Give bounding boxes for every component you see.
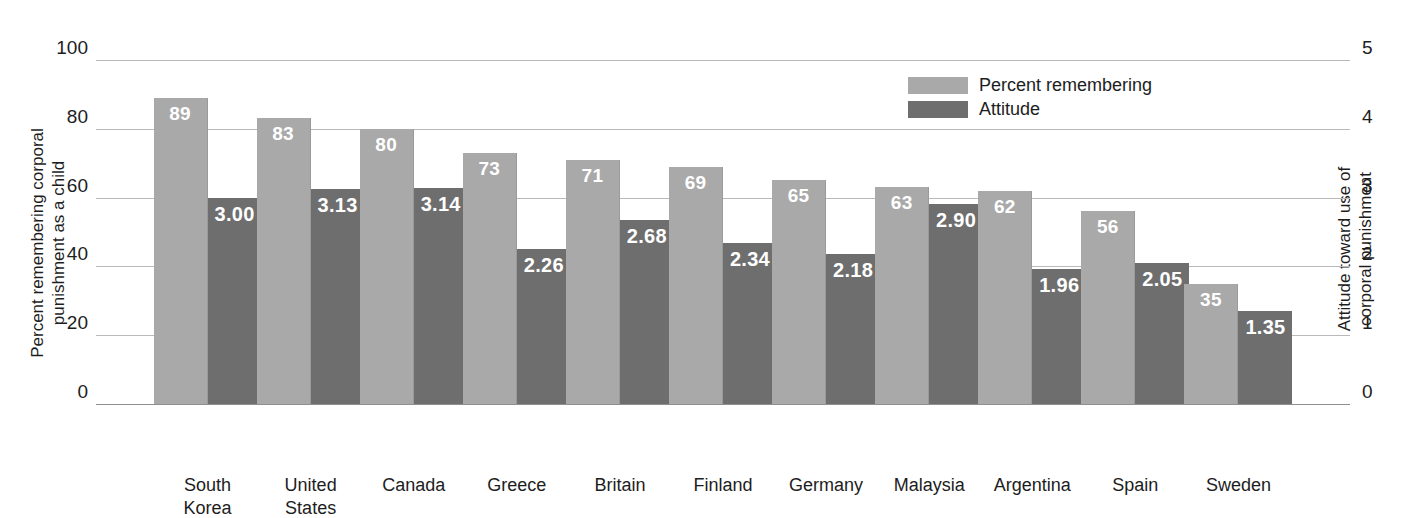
bar-group: 351.35 <box>1184 60 1292 404</box>
bar-value-label: 3.13 <box>311 195 365 215</box>
bar-value-label: 2.34 <box>723 249 777 269</box>
bar-percent-remembering: 35 <box>1184 284 1238 404</box>
y-tick-label-right: 0 <box>1362 382 1406 401</box>
bar-percent-remembering: 69 <box>669 167 723 404</box>
bar-percent-remembering: 65 <box>772 180 826 404</box>
bar-attitude: 2.26 <box>517 249 571 404</box>
bar-group: 803.14 <box>360 60 468 404</box>
y-axis-title-left: Percent remembering corporal punishment … <box>27 83 69 403</box>
bar-value-label: 62 <box>978 197 1031 217</box>
legend-item: Percent remembering <box>908 74 1152 96</box>
bar-percent-remembering: 89 <box>154 98 208 404</box>
bar-value-label: 2.68 <box>620 226 674 246</box>
legend-label: Attitude <box>979 99 1040 120</box>
y-tick-label-right: 4 <box>1362 107 1406 126</box>
bar-group: 652.18 <box>772 60 880 404</box>
y-tick-label-left: 40 <box>28 244 88 263</box>
bar-value-label: 80 <box>360 135 413 155</box>
bar-group: 712.68 <box>566 60 674 404</box>
bar-percent-remembering: 83 <box>257 118 311 404</box>
bar-value-label: 3.00 <box>208 204 262 224</box>
bar-attitude: 1.96 <box>1032 269 1086 404</box>
bar-value-label: 1.35 <box>1238 317 1292 337</box>
bar-value-label: 56 <box>1081 217 1134 237</box>
bar-group: 833.13 <box>257 60 365 404</box>
y-tick-label-left: 80 <box>28 107 88 126</box>
legend-swatch-icon <box>908 101 968 118</box>
legend-item: Attitude <box>908 98 1152 120</box>
x-category-label: Sweden <box>1163 474 1313 497</box>
bar-percent-remembering: 63 <box>875 187 929 404</box>
bar-percent-remembering: 56 <box>1081 211 1135 404</box>
bar-attitude: 3.14 <box>414 188 468 404</box>
bar-group: 893.00 <box>154 60 262 404</box>
y-tick-label-right: 1 <box>1362 313 1406 332</box>
bar-value-label: 1.96 <box>1032 275 1086 295</box>
bar-value-label: 2.26 <box>517 255 571 275</box>
bar-value-label: 65 <box>772 186 825 206</box>
y-tick-label-right: 5 <box>1362 38 1406 57</box>
y-tick-label-right: 3 <box>1362 176 1406 195</box>
bar-attitude: 2.90 <box>929 204 983 404</box>
bar-percent-remembering: 73 <box>463 153 517 404</box>
legend-label: Percent remembering <box>979 75 1152 96</box>
bar-percent-remembering: 71 <box>566 160 620 404</box>
bar-value-label: 3.14 <box>414 194 468 214</box>
bar-group: 692.34 <box>669 60 777 404</box>
bar-value-label: 89 <box>154 104 207 124</box>
bar-attitude: 2.18 <box>826 254 880 404</box>
gridline <box>96 404 1350 405</box>
bar-attitude: 2.68 <box>620 220 674 404</box>
y-tick-label-left: 0 <box>28 382 88 401</box>
bar-value-label: 69 <box>669 173 722 193</box>
bar-attitude: 2.05 <box>1135 263 1189 404</box>
bar-attitude: 3.13 <box>311 189 365 404</box>
y-tick-label-left: 100 <box>28 38 88 57</box>
bar-value-label: 71 <box>566 166 619 186</box>
bar-value-label: 2.90 <box>929 210 983 230</box>
bar-value-label: 2.18 <box>826 260 880 280</box>
y-tick-label-left: 60 <box>28 176 88 195</box>
bar-value-label: 63 <box>875 193 928 213</box>
chart-legend: Percent rememberingAttitude <box>908 74 1152 122</box>
bar-value-label: 35 <box>1184 290 1237 310</box>
bar-attitude: 2.34 <box>723 243 777 404</box>
legend-swatch-icon <box>908 77 968 94</box>
y-tick-label-right: 2 <box>1362 244 1406 263</box>
bar-value-label: 83 <box>257 124 310 144</box>
bar-percent-remembering: 62 <box>978 191 1032 404</box>
bar-attitude: 1.35 <box>1238 311 1292 404</box>
bar-value-label: 2.05 <box>1135 269 1189 289</box>
bar-value-label: 73 <box>463 159 516 179</box>
bar-percent-remembering: 80 <box>360 129 414 404</box>
bar-group: 732.26 <box>463 60 571 404</box>
bar-attitude: 3.00 <box>208 198 262 404</box>
y-tick-label-left: 20 <box>28 313 88 332</box>
